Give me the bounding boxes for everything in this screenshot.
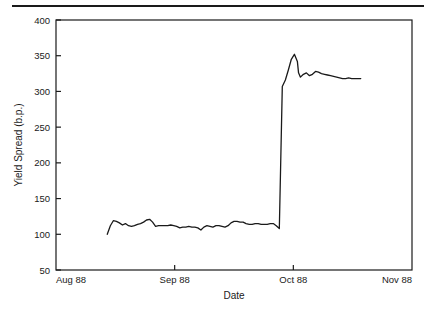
y-axis-ticks [56, 20, 61, 270]
x-axis-tick-label: Sep 88 [160, 274, 190, 285]
x-axis-tick-label: Nov 88 [382, 274, 412, 285]
y-axis-tick-label: 300 [34, 86, 50, 97]
x-axis-ticks [175, 265, 294, 270]
yield-spread-data-line [107, 54, 360, 234]
y-axis-tick-label: 400 [34, 15, 50, 26]
y-axis-tick-labels: 50100150200250300350400 [34, 15, 50, 276]
plot-area-border [56, 20, 412, 270]
plot-frame [56, 20, 412, 270]
x-axis-title: Date [223, 290, 245, 301]
x-axis-tick-label: Aug 88 [56, 274, 86, 285]
x-axis-tick-labels: Aug 88Sep 88Oct 88Nov 88 [56, 274, 412, 285]
y-axis-tick-label: 350 [34, 50, 50, 61]
y-axis-tick-label: 200 [34, 157, 50, 168]
y-axis-tick-label: 250 [34, 122, 50, 133]
figure-container: 50100150200250300350400 Aug 88Sep 88Oct … [0, 0, 434, 314]
y-axis-title: Yield Spread (b.p.) [13, 103, 24, 186]
y-axis-tick-label: 100 [34, 229, 50, 240]
x-axis-tick-label: Oct 88 [279, 274, 307, 285]
y-axis-tick-label: 150 [34, 193, 50, 204]
yield-spread-line-chart: 50100150200250300350400 Aug 88Sep 88Oct … [0, 0, 434, 314]
y-axis-tick-label: 50 [39, 265, 50, 276]
